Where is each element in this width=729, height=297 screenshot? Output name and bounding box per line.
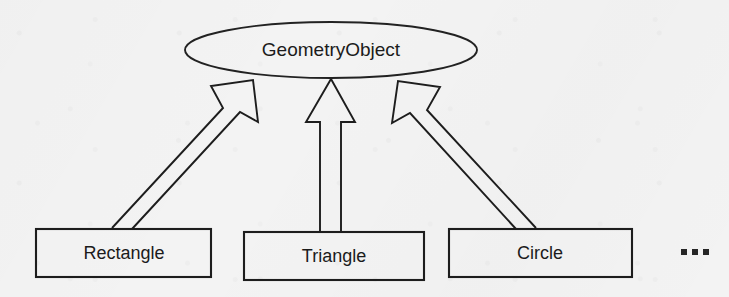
continuation-ellipsis — [681, 249, 709, 255]
ellipsis-dot-2 — [692, 249, 698, 255]
generalization-arrow-triangle — [306, 79, 355, 231]
circle-label: Circle — [517, 243, 563, 263]
ellipsis-dot-1 — [681, 249, 687, 255]
ellipsis-dot-3 — [703, 249, 709, 255]
uml-inheritance-diagram: GeometryObject Rectangle Triangle Circle… — [0, 0, 729, 297]
diagram-canvas: GeometryObject Rectangle Triangle Circle — [0, 0, 729, 297]
triangle-label: Triangle — [302, 246, 366, 266]
node-rectangle[interactable]: Rectangle — [36, 229, 211, 277]
node-triangle[interactable]: Triangle — [244, 232, 424, 280]
rectangle-label: Rectangle — [83, 243, 164, 263]
node-circle[interactable]: Circle — [449, 229, 632, 277]
node-geometryobject[interactable]: GeometryObject — [185, 22, 477, 78]
generalization-arrow-circle — [392, 81, 536, 229]
generalization-arrow-rectangle — [112, 80, 258, 229]
geometryobject-label: GeometryObject — [262, 39, 401, 60]
